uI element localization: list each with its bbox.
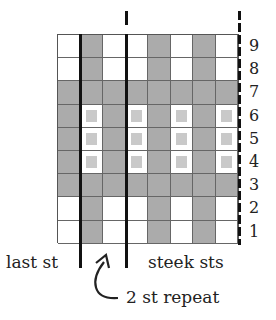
curved-arrow-icon (0, 0, 276, 320)
